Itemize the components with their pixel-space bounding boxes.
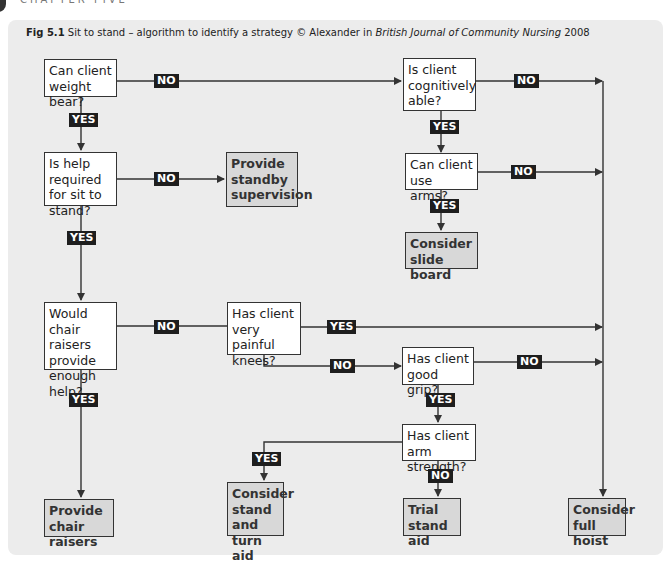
- label-no-painful-knees: NO: [330, 359, 355, 373]
- node-help-required: Is help required for sit to stand?: [44, 152, 117, 206]
- label-no-good-grip: NO: [517, 355, 542, 369]
- label-yes-painful-knees: YES: [327, 320, 356, 334]
- node-good-grip: Has client good grip?: [402, 347, 474, 385]
- label-no-arm-strength: NO: [428, 469, 453, 483]
- label-no-help: NO: [154, 172, 179, 186]
- label-no-cognitive: NO: [514, 74, 539, 88]
- label-yes-weight-bear: YES: [69, 113, 98, 127]
- label-yes-arm-strength: YES: [252, 452, 281, 466]
- node-full-hoist: Consider full hoist: [568, 498, 626, 536]
- node-use-arms: Can client use arms?: [405, 153, 478, 190]
- node-stand-turn-aid: Consider stand and turn aid: [227, 482, 284, 536]
- label-yes-cognitive: YES: [430, 120, 459, 134]
- label-yes-chair: YES: [69, 393, 98, 407]
- node-trial-stand-aid: Trial stand aid: [403, 498, 461, 536]
- label-yes-help: YES: [67, 231, 96, 245]
- node-chair-raisers-question: Would chair raisers provide enough help?: [44, 302, 117, 370]
- label-yes-use-arms: YES: [430, 199, 459, 213]
- node-standby-supervision: Provide standby supervision: [226, 152, 298, 207]
- node-painful-knees: Has client very painful knees?: [227, 302, 301, 355]
- label-no-weight-bear: NO: [154, 74, 179, 88]
- node-slide-board: Consider slide board: [405, 232, 478, 269]
- node-provide-chair-raisers: Provide chair raisers: [44, 499, 114, 537]
- label-yes-good-grip: YES: [426, 393, 455, 407]
- node-arm-strength: Has client arm strength?: [402, 424, 476, 461]
- label-no-chair: NO: [154, 320, 179, 334]
- label-no-use-arms: NO: [511, 165, 536, 179]
- node-cognitively-able: Is client cognitively able?: [403, 58, 476, 111]
- node-weight-bear: Can client weight bear?: [44, 59, 117, 97]
